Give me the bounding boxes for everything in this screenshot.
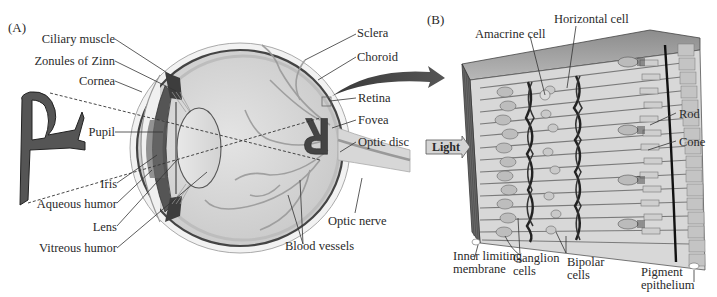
panel-b-letter: (B)	[427, 12, 444, 28]
label-zonules-of-zinn: Zonules of Zinn	[34, 55, 115, 68]
label-cornea: Cornea	[79, 75, 115, 88]
object-letter-r	[20, 92, 85, 205]
label-aqueous-humor: Aqueous humor	[37, 198, 117, 211]
light-arrow-label: Light	[432, 140, 460, 155]
label-retina: Retina	[358, 92, 391, 105]
eye-anatomy-figure: (A) (B) Ciliary muscle Zonules of Zinn C…	[0, 0, 717, 297]
label-choroid: Choroid	[357, 51, 398, 64]
label-blood-vessels: Blood vessels	[285, 240, 354, 253]
label-pigment-epithelium: Pigment epithelium	[641, 266, 711, 292]
label-ganglion-cells: Ganglion cells	[513, 252, 568, 278]
label-vitreous-humor: Vitreous humor	[39, 242, 117, 255]
label-iris: Iris	[100, 178, 117, 191]
label-pupil: Pupil	[89, 126, 115, 139]
label-optic-disc: Optic disc	[358, 136, 409, 149]
label-fovea: Fovea	[358, 114, 389, 127]
label-optic-nerve: Optic nerve	[328, 215, 387, 228]
label-sclera: Sclera	[357, 27, 388, 40]
label-lens: Lens	[93, 221, 117, 234]
retina-block	[462, 30, 705, 270]
label-horizontal-cell: Horizontal cell	[554, 13, 629, 26]
light-arrow-label-box: Light	[426, 138, 474, 156]
label-amacrine-cell: Amacrine cell	[475, 28, 545, 41]
label-ciliary-muscle: Ciliary muscle	[42, 33, 115, 46]
label-bipolar-cells: Bipolar cells	[567, 256, 617, 282]
panel-a-letter: (A)	[8, 20, 26, 36]
label-rod: Rod	[679, 108, 700, 121]
label-cone: Cone	[679, 136, 705, 149]
